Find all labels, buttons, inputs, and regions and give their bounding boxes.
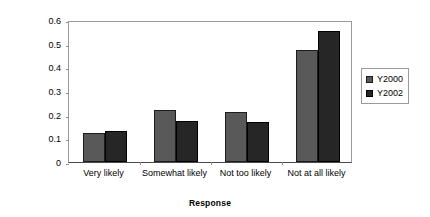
y-tick-mark <box>66 140 69 141</box>
bar <box>247 122 269 162</box>
legend-swatch-icon <box>366 90 373 97</box>
bar <box>105 131 127 162</box>
legend-item: Y2000 <box>366 72 403 86</box>
x-axis-title: Response <box>68 198 352 208</box>
plot-area <box>68 21 352 163</box>
y-tick-label: 0.1 <box>48 134 61 144</box>
x-tick-label: Not at all likely <box>273 167 360 179</box>
legend-swatch-icon <box>366 76 373 83</box>
y-tick-mark <box>66 46 69 47</box>
y-tick-mark <box>66 117 69 118</box>
y-tick-label: 0.2 <box>48 111 61 121</box>
x-tick-mark <box>140 162 141 165</box>
bar-chart: Relative Frequency 00.10.20.30.40.50.6 V… <box>0 0 430 217</box>
bar <box>154 110 176 162</box>
legend-label: Y2000 <box>377 74 403 84</box>
bars-layer <box>69 22 351 162</box>
legend-item: Y2002 <box>366 86 403 100</box>
bar <box>83 133 105 162</box>
y-tick-label: 0.6 <box>48 16 61 26</box>
x-tick-mark <box>211 162 212 165</box>
legend-label: Y2002 <box>377 88 403 98</box>
legend: Y2000Y2002 <box>361 68 409 104</box>
y-tick-label: 0.4 <box>48 63 61 73</box>
bar <box>296 50 318 162</box>
x-axis-tick-labels: Very likelySomewhat likelyNot too likely… <box>68 167 352 199</box>
y-tick-label: 0.5 <box>48 40 61 50</box>
y-tick-mark <box>66 69 69 70</box>
bar <box>225 112 247 162</box>
bar <box>176 121 198 162</box>
y-tick-mark <box>66 22 69 23</box>
x-tick-mark <box>282 162 283 165</box>
y-tick-mark <box>66 93 69 94</box>
y-axis-tick-labels: 00.10.20.30.40.50.6 <box>38 14 64 170</box>
y-tick-mark <box>66 164 69 165</box>
bar <box>318 31 340 162</box>
y-tick-label: 0.3 <box>48 87 61 97</box>
